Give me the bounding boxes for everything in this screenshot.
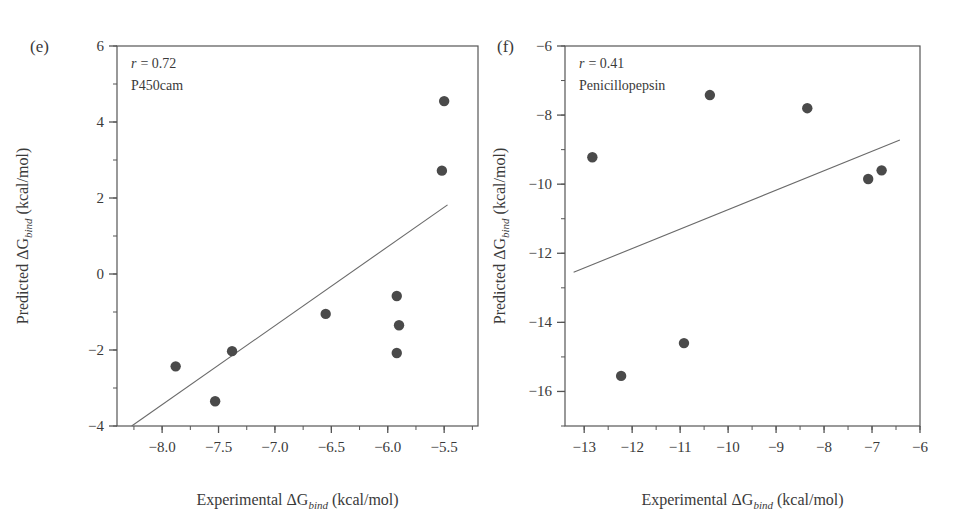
data-point[interactable] <box>679 338 689 348</box>
regression-line <box>574 140 900 272</box>
y-tick-label: −10 <box>529 176 552 192</box>
system-name-annotation: P450cam <box>131 78 183 93</box>
y-tick-label: −12 <box>529 245 552 261</box>
y-axis-title-prefix: Predicted <box>491 260 508 324</box>
x-tick-label: −8 <box>816 439 832 455</box>
y-axis-title-prefix: Predicted <box>14 260 31 324</box>
data-point[interactable] <box>439 96 449 106</box>
regression-line <box>132 205 448 426</box>
x-tick-label: −12 <box>620 439 643 455</box>
y-axis-title-symbol: ΔG <box>14 238 31 260</box>
data-point[interactable] <box>863 174 873 184</box>
data-point[interactable] <box>392 348 402 358</box>
scatter-plot-figure: (e)−8.0−7.5−7.0−6.5−6.0−5.5−4−20246r= 0.… <box>0 0 974 524</box>
x-axis-title-subscript: bind <box>753 499 773 511</box>
correlation-annotation: r= 0.72 <box>131 56 176 71</box>
y-tick-label: −14 <box>529 314 553 330</box>
panel-f: (f)−13−12−11−10−9−8−7−6−16−14−12−10−8−6r… <box>491 37 928 511</box>
data-point[interactable] <box>227 346 237 356</box>
data-point[interactable] <box>616 371 626 381</box>
data-point[interactable] <box>170 361 180 371</box>
x-tick-label: −8.0 <box>149 439 176 455</box>
data-point[interactable] <box>876 165 886 175</box>
x-tick-label: −9 <box>768 439 784 455</box>
x-axis-title-unit: (kcal/mol) <box>773 491 844 509</box>
x-axis-title-symbol: ΔG <box>732 491 754 508</box>
correlation-value: = 0.72 <box>140 56 176 71</box>
x-axis-title: Experimental ΔGbind (kcal/mol) <box>196 491 398 511</box>
y-axis-title-unit: (kcal/mol) <box>491 148 509 219</box>
y-axis-title-unit: (kcal/mol) <box>14 148 32 219</box>
panel-e: (e)−8.0−7.5−7.0−6.5−6.0−5.5−4−20246r= 0.… <box>14 37 478 511</box>
data-point[interactable] <box>705 90 715 100</box>
y-tick-label: −2 <box>88 342 104 358</box>
y-tick-label: 2 <box>97 190 105 206</box>
correlation-symbol: r <box>579 56 585 71</box>
panel-letter: (e) <box>30 37 49 56</box>
x-tick-label: −13 <box>572 439 595 455</box>
x-tick-label: −6 <box>912 439 928 455</box>
x-axis-title-symbol: ΔG <box>287 491 309 508</box>
x-tick-label: −7.0 <box>261 439 288 455</box>
y-axis-title-symbol: ΔG <box>491 238 508 260</box>
data-point[interactable] <box>321 309 331 319</box>
plot-frame <box>565 46 920 426</box>
system-name-annotation: Penicillopepsin <box>579 78 665 93</box>
data-point[interactable] <box>802 103 812 113</box>
correlation-value: = 0.41 <box>588 56 624 71</box>
x-tick-label: −10 <box>716 439 739 455</box>
plot-frame <box>117 46 478 426</box>
correlation-symbol: r <box>131 56 137 71</box>
x-axis-title-unit: (kcal/mol) <box>328 491 399 509</box>
y-axis-title: Predicted ΔGbind (kcal/mol) <box>491 148 511 324</box>
y-tick-label: 4 <box>97 114 105 130</box>
data-point[interactable] <box>210 396 220 406</box>
x-axis-title-subscript: bind <box>308 499 328 511</box>
x-tick-label: −7 <box>864 439 880 455</box>
y-axis-title-subscript: bind <box>22 218 34 238</box>
y-axis-title-subscript: bind <box>499 218 511 238</box>
data-point[interactable] <box>394 320 404 330</box>
x-tick-label: −6.5 <box>318 439 345 455</box>
data-point[interactable] <box>392 291 402 301</box>
correlation-annotation: r= 0.41 <box>579 56 624 71</box>
data-point[interactable] <box>587 152 597 162</box>
y-tick-label: 0 <box>97 266 105 282</box>
x-tick-label: −5.5 <box>431 439 458 455</box>
x-tick-label: −6.0 <box>374 439 401 455</box>
x-axis-title-prefix: Experimental <box>641 491 731 509</box>
x-tick-label: −7.5 <box>205 439 232 455</box>
y-tick-label: −6 <box>536 38 552 54</box>
x-tick-label: −11 <box>669 439 692 455</box>
y-tick-label: −16 <box>529 383 553 399</box>
data-point[interactable] <box>437 165 447 175</box>
y-tick-label: 6 <box>97 38 105 54</box>
panel-letter: (f) <box>497 37 514 56</box>
x-axis-title: Experimental ΔGbind (kcal/mol) <box>641 491 843 511</box>
y-tick-label: −8 <box>536 107 552 123</box>
y-tick-label: −4 <box>88 418 104 434</box>
x-axis-title-prefix: Experimental <box>196 491 286 509</box>
y-axis-title: Predicted ΔGbind (kcal/mol) <box>14 148 34 324</box>
figure-container: (e)−8.0−7.5−7.0−6.5−6.0−5.5−4−20246r= 0.… <box>0 0 974 524</box>
